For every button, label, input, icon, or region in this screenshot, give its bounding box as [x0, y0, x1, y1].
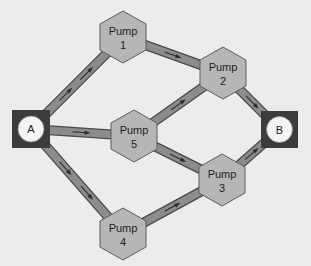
- pump-2-label-line1: Pump: [209, 61, 238, 73]
- pump-5: Pump 5: [111, 110, 157, 162]
- pump-network-diagram: A B Pump 1 Pump 2 Pump 5 Pump 3: [0, 0, 311, 266]
- terminal-b: B: [261, 111, 298, 148]
- pumps-layer: Pump 1 Pump 2 Pump 5 Pump 3 Pump 4: [100, 11, 246, 260]
- pump-4-label-line2: 4: [120, 236, 126, 248]
- pump-5-label-line1: Pump: [120, 124, 149, 136]
- terminal-a-label: A: [27, 123, 35, 135]
- pump-3-label-line2: 3: [219, 182, 225, 194]
- pump-1-label-line2: 1: [120, 39, 126, 51]
- pump-1-label-line1: Pump: [109, 25, 138, 37]
- pump-5-hexagon: [111, 110, 157, 162]
- pump-2-label-line2: 2: [220, 75, 226, 87]
- pump-5-label-line2: 5: [131, 138, 137, 150]
- terminal-b-label: B: [276, 124, 283, 136]
- pump-4-label-line1: Pump: [109, 222, 138, 234]
- terminal-a: A: [12, 110, 50, 148]
- pump-3-label-line1: Pump: [208, 168, 237, 180]
